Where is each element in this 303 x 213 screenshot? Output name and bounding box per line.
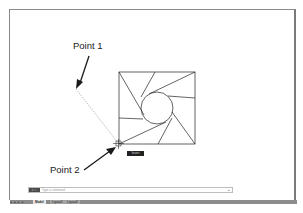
command-line-buttons[interactable]: x ✎ [29,188,40,192]
point2-label: Point 2 [50,164,80,175]
arrow-point2-icon [84,147,116,170]
drawing-canvas[interactable] [0,0,303,213]
arrow-point1-icon [76,56,89,89]
cursor-tooltip: Insert [127,151,144,156]
tab-layout1[interactable]: Layout1 [50,200,65,204]
command-input[interactable]: Type a command [42,188,65,192]
command-line[interactable]: x ✎ Type a command ▴ [28,187,233,193]
tab-model[interactable]: Model [33,200,46,204]
tab-nav-buttons[interactable]: ◂ ◂ ▸ ▸ [10,200,24,204]
tab-layout2[interactable]: Layout2 [65,200,80,204]
command-history-arrow-icon[interactable]: ▴ [228,188,230,192]
rubberband-line [76,89,119,144]
point1-label: Point 1 [73,40,103,51]
aperture-block[interactable] [119,72,195,144]
layout-tab-bar: ◂ ◂ ▸ ▸ Model Layout1 Layout2 [10,200,297,204]
